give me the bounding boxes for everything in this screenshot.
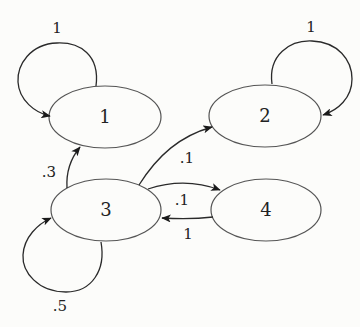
node-2-label: 2: [259, 105, 270, 126]
edge-3-to-2-label: .1: [180, 149, 194, 167]
self-loop-arrow-icon: [18, 43, 97, 116]
edge-3-to-4-label: .1: [175, 191, 189, 209]
self-loop-arrow-icon: [272, 41, 352, 115]
edge-2-to-2: 1: [272, 18, 352, 115]
edge-2-to-2-label: 1: [306, 18, 316, 36]
arrow-icon: [67, 147, 80, 188]
edge-1-to-1-label: 1: [52, 19, 62, 37]
node-4: 4: [211, 179, 321, 241]
node-1: 1: [49, 86, 161, 148]
arrow-icon: [162, 217, 213, 219]
node-2: 2: [209, 85, 321, 147]
edge-3-to-1-label: .3: [42, 163, 56, 181]
edge-4-to-3: 1: [162, 217, 213, 243]
edge-3-to-1: .3: [42, 147, 80, 188]
node-4-label: 4: [260, 199, 271, 220]
arrow-icon: [148, 183, 220, 190]
node-3-label: 3: [100, 199, 111, 220]
node-3: 3: [51, 179, 161, 241]
state-diagram: 1 2 3 4 1 1 .5 .3 .1 .1: [0, 0, 360, 327]
edge-3-to-3: .5: [23, 218, 102, 315]
edge-3-to-3-label: .5: [53, 297, 67, 315]
node-1-label: 1: [99, 106, 110, 127]
edge-4-to-3-label: 1: [183, 225, 193, 243]
edge-3-to-4: .1: [148, 183, 220, 209]
